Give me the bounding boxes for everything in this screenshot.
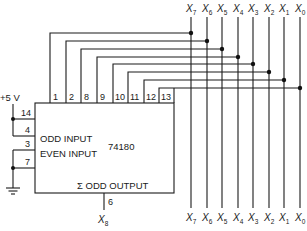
svg-text:8: 8 [84,92,89,102]
svg-text:X5: X5 [216,3,228,16]
top-pin-numbers: 1 2 8 9 10 11 12 13 [53,92,171,102]
junction-dots [189,31,302,90]
svg-text:1: 1 [53,92,58,102]
ground-symbol-icon [6,188,20,194]
top-input-labels: X7 X6 X5 X4 X3 X2 X1 X0 [185,3,306,16]
svg-text:X1: X1 [278,212,290,225]
parity-generator-schematic: +5 V 14 4 3 7 ODD INPUT EVEN INPUT 74180… [0,0,307,231]
svg-text:12: 12 [146,92,156,102]
svg-text:X2: X2 [263,3,275,16]
pin-4-label: 4 [25,125,30,135]
svg-text:11: 11 [130,92,139,102]
svg-text:X0: X0 [294,212,306,225]
pin-7-label: 7 [25,157,30,167]
svg-text:10: 10 [115,92,125,102]
input-bus-lines [191,17,300,208]
svg-text:X3: X3 [247,212,259,225]
svg-text:X7: X7 [185,3,197,16]
svg-text:X6: X6 [201,212,213,225]
part-number: 74180 [108,141,134,152]
pin-3-label: 3 [25,139,30,149]
svg-text:2: 2 [69,92,74,102]
supply-label: +5 V [0,92,20,103]
even-input-label: EVEN INPUT [40,148,97,159]
svg-text:13: 13 [161,92,171,102]
svg-text:X6: X6 [201,3,213,16]
svg-text:X2: X2 [263,212,275,225]
bottom-input-labels: X7 X6 X5 X4 X3 X2 X1 X0 [185,212,306,225]
svg-text:X1: X1 [278,3,290,16]
svg-text:X5: X5 [216,212,228,225]
svg-text:9: 9 [100,92,105,102]
output-signal-x8: X8 [97,214,109,227]
svg-text:X4: X4 [232,212,244,225]
svg-text:X4: X4 [232,3,244,16]
output-label: Σ ODD OUTPUT [77,180,149,191]
pin-14-label: 14 [21,108,31,118]
svg-text:X3: X3 [247,3,259,16]
odd-input-label: ODD INPUT [40,133,92,144]
output-pin-number: 6 [108,197,113,207]
svg-text:X7: X7 [185,212,197,225]
ground-wiring [11,150,35,188]
svg-text:X0: X0 [294,3,306,16]
